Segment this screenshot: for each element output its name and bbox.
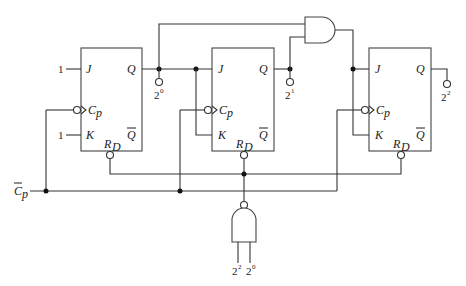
svg-text:1: 1 (291, 87, 295, 95)
svg-text:K: K (374, 128, 384, 142)
svg-text:p: p (226, 106, 233, 120)
counter-circuit-diagram: 1 J 1 K Q Q C p R D 2 0 J K (0, 0, 466, 286)
svg-text:K: K (85, 128, 95, 142)
svg-text:2: 2 (246, 265, 252, 277)
output-terminal-q2 (444, 81, 451, 88)
svg-text:R: R (103, 137, 112, 151)
svg-text:J: J (218, 62, 224, 76)
svg-text:J: J (375, 62, 381, 76)
svg-text:p: p (95, 106, 102, 120)
svg-text:Q: Q (416, 128, 425, 142)
svg-text:2: 2 (441, 91, 447, 103)
svg-text:2: 2 (285, 89, 291, 101)
output-terminal-q0 (156, 79, 163, 86)
clock-bus: C p (14, 183, 337, 201)
svg-text:2: 2 (447, 89, 451, 97)
svg-text:Q: Q (127, 62, 136, 76)
svg-text:K: K (217, 128, 227, 142)
clock-invert-bubble-icon (74, 107, 81, 114)
ff2-q-network: 2 2 (431, 69, 451, 103)
svg-text:p: p (21, 187, 28, 201)
output-terminal-q1 (287, 79, 294, 86)
svg-text:2: 2 (154, 89, 160, 101)
svg-text:Q: Q (259, 62, 268, 76)
svg-text:Q: Q (416, 62, 425, 76)
svg-text:0: 0 (160, 87, 164, 95)
svg-text:R: R (235, 137, 244, 151)
nand-gate: 2 2 2 0 (232, 202, 256, 278)
ff1-q-network: 2 1 (274, 37, 305, 101)
svg-text:R: R (392, 137, 401, 151)
svg-text:p: p (383, 106, 390, 120)
svg-text:Q: Q (259, 128, 268, 142)
svg-text:2: 2 (232, 265, 238, 277)
svg-text:J: J (86, 62, 92, 76)
svg-text:2: 2 (238, 263, 242, 271)
svg-text:1: 1 (58, 63, 64, 75)
svg-text:1: 1 (58, 129, 64, 141)
svg-text:Q: Q (127, 128, 136, 142)
svg-text:0: 0 (252, 263, 256, 271)
